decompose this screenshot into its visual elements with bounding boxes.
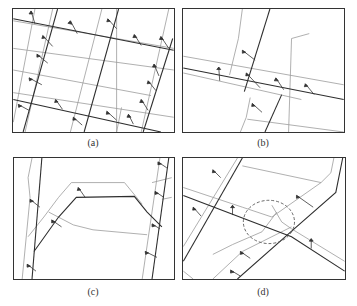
panel-c-road-map [14,158,174,279]
panel-b-caption: (b) [243,137,283,148]
panel-b-frame [182,8,345,133]
panel-a-frame [12,8,175,133]
panel-a-caption: (a) [73,137,113,148]
panel-a-road-map [13,9,174,132]
panel-d-caption: (d) [243,286,283,297]
panel-c-frame [13,157,175,280]
panel-c-caption: (c) [73,286,113,297]
panel-d-road-map [183,158,345,279]
panel-d-frame [182,157,346,280]
panel-b-road-map [183,9,344,132]
highlight-circle [243,200,294,243]
